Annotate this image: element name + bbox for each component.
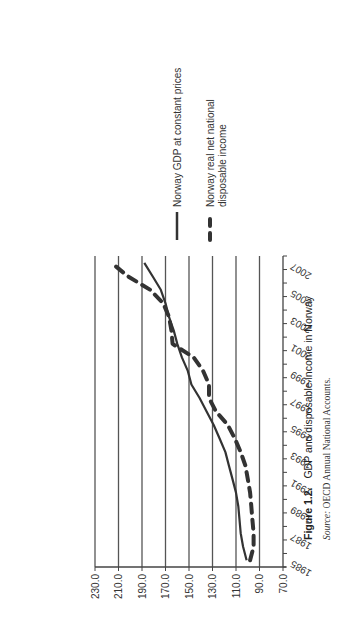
legend-label: Norway GDP at constant prices bbox=[172, 68, 183, 207]
gridlines bbox=[95, 256, 260, 567]
figure-title: GDP and disposable income in Norway bbox=[302, 296, 314, 478]
x-tick-label: 2007 bbox=[288, 261, 313, 282]
y-tick-label: 190.0 bbox=[137, 574, 148, 599]
y-tick-label: 170.0 bbox=[160, 574, 171, 599]
legend-label: Norway real net national bbox=[205, 99, 216, 207]
source-label: Source: bbox=[322, 511, 332, 540]
figure-caption: Figure 1.2. GDP and disposable income in… bbox=[302, 296, 314, 540]
y-tick-label: 70.0 bbox=[278, 574, 289, 594]
y-axis-tick-labels: 230.0210.0190.0170.0150.0130.0110.090.07… bbox=[90, 574, 289, 599]
x-tick-label: 1985 bbox=[288, 558, 313, 579]
y-tick-label: 90.0 bbox=[254, 574, 265, 594]
figure-number: Figure 1.2. bbox=[302, 487, 314, 540]
y-tick-label: 230.0 bbox=[90, 574, 101, 599]
rotated-page: 230.0210.0190.0170.0150.0130.0110.090.07… bbox=[0, 0, 363, 635]
series-income-line bbox=[112, 263, 254, 560]
y-tick-label: 130.0 bbox=[207, 574, 218, 599]
legend: Norway GDP at constant pricesNorway real… bbox=[172, 68, 228, 240]
y-tick-label: 210.0 bbox=[113, 574, 124, 599]
axes bbox=[95, 256, 287, 571]
data-series bbox=[112, 263, 254, 560]
source-text: OECD Annual National Accounts. bbox=[322, 378, 332, 509]
legend-label: disposable income bbox=[217, 124, 228, 207]
y-tick-label: 110.0 bbox=[231, 574, 242, 599]
series-gdp-line bbox=[144, 263, 246, 560]
figure-source: Source: OECD Annual National Accounts. bbox=[322, 378, 332, 540]
y-tick-label: 150.0 bbox=[184, 574, 195, 599]
